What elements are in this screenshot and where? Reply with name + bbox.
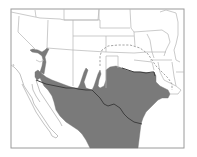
range-map [0, 0, 197, 157]
